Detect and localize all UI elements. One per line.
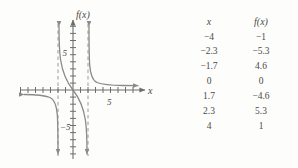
cell-fx: 4.6 <box>232 60 290 75</box>
y-tick-label-neg5: −5 <box>60 122 71 132</box>
cell-x: 0 <box>186 75 232 90</box>
table-row: 1.7 −4.6 <box>186 90 290 105</box>
column-header-x: x <box>186 16 232 30</box>
table-row: 4 1 <box>186 120 290 135</box>
table-row: 2.3 5.3 <box>186 105 290 120</box>
axes-group <box>20 20 145 159</box>
graph-canvas: f(x) x 5 −5 5 <box>8 4 158 164</box>
cell-x: 4 <box>186 120 232 135</box>
function-graph: f(x) x 5 −5 5 <box>8 4 158 164</box>
column-header-fx: f(x) <box>232 16 290 30</box>
cell-fx: −1 <box>232 30 290 45</box>
y-tick-label-5: 5 <box>63 48 68 58</box>
cell-x: −2.3 <box>186 45 232 60</box>
table-row: 0 0 <box>186 75 290 90</box>
curve-branch-far-left <box>24 95 58 155</box>
cell-x: 1.7 <box>186 90 232 105</box>
x-tick-label-5: 5 <box>107 97 112 107</box>
cell-fx: −5.3 <box>232 45 290 60</box>
table-row: −2.3 −5.3 <box>186 45 290 60</box>
curve-branch-far-right <box>89 26 138 86</box>
cell-x: 2.3 <box>186 105 232 120</box>
table-row: −4 −1 <box>186 30 290 45</box>
values-table: x f(x) −4 −1 −2.3 −5.3 −1.7 4.6 0 <box>186 16 290 135</box>
table-body: −4 −1 −2.3 −5.3 −1.7 4.6 0 0 1.7 −4.6 <box>186 30 290 135</box>
table-header-row: x f(x) <box>186 16 290 30</box>
cell-fx: 5.3 <box>232 105 290 120</box>
cell-x: −1.7 <box>186 60 232 75</box>
table-row: −1.7 4.6 <box>186 60 290 75</box>
curve-branch-mid-right <box>73 90 87 154</box>
x-axis-label: x <box>147 85 153 96</box>
cell-fx: 1 <box>232 120 290 135</box>
y-axis-label: f(x) <box>76 9 91 21</box>
textbook-figure: f(x) x 5 −5 5 x f(x) −4 −1 −2.3 <box>0 0 298 168</box>
curve-branch-mid-left <box>59 26 73 90</box>
cell-x: −4 <box>186 30 232 45</box>
cell-fx: −4.6 <box>232 90 290 105</box>
cell-fx: 0 <box>232 75 290 90</box>
values-table-panel: x f(x) −4 −1 −2.3 −5.3 −1.7 4.6 0 <box>186 16 290 135</box>
